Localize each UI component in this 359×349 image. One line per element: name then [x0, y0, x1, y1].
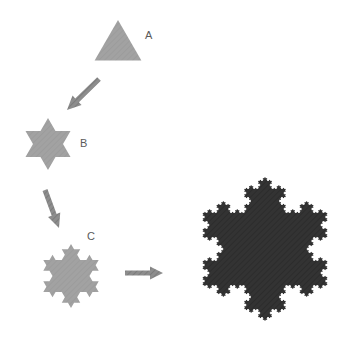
koch-shape-final	[203, 177, 328, 321]
koch-construction-svg	[0, 0, 359, 349]
stage-label-a: A	[145, 30, 153, 41]
koch-shape-a	[95, 20, 142, 61]
arrow-b-to-c-icon	[43, 189, 61, 228]
arrow-c-to-final-icon	[125, 267, 163, 280]
figure-canvas: ABC	[0, 0, 359, 349]
stage-label-b: B	[80, 138, 88, 149]
koch-shapes-group	[25, 20, 327, 321]
koch-shape-b	[25, 118, 70, 170]
arrow-a-to-b-icon	[67, 77, 101, 110]
arrows-group	[43, 77, 163, 279]
koch-shape-c	[43, 244, 98, 308]
stage-label-c: C	[87, 231, 95, 242]
